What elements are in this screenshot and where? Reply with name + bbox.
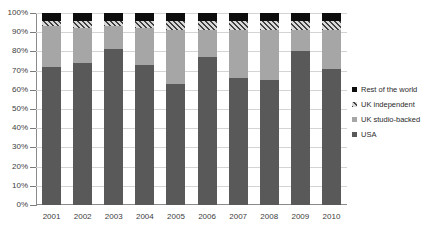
bar-group xyxy=(166,13,185,205)
bar-segment-usa xyxy=(104,49,123,205)
bar-segment-uk-studio-backed xyxy=(198,30,217,57)
x-axis-tick-label: 2001 xyxy=(37,212,67,221)
bar-segment-rest-of-the-world xyxy=(322,13,341,21)
legend-item-label: Rest of the world xyxy=(361,86,417,94)
bar-segment-usa xyxy=(291,51,310,205)
bar-group xyxy=(291,13,310,205)
bar-segment-uk-independent xyxy=(42,21,61,27)
bar-segment-usa xyxy=(73,63,92,205)
bar-segment-rest-of-the-world xyxy=(260,13,279,21)
x-axis-tick-label: 2007 xyxy=(223,212,253,221)
y-axis-tick-label: 100% xyxy=(0,9,28,17)
legend-swatch-usa xyxy=(352,132,357,137)
bar-segment-usa xyxy=(42,67,61,205)
bar-segment-uk-studio-backed xyxy=(104,26,123,49)
bar-segment-usa xyxy=(166,84,185,205)
bar-segment-uk-independent xyxy=(135,21,154,29)
x-axis-tick-label: 2008 xyxy=(254,212,284,221)
chart-legend: Rest of the worldUK independentUK studio… xyxy=(352,82,428,142)
bar-segment-uk-independent xyxy=(322,21,341,31)
bar-segment-uk-studio-backed xyxy=(42,26,61,66)
bar-segment-rest-of-the-world xyxy=(198,13,217,21)
plot-area xyxy=(36,13,347,205)
bar-segment-uk-independent xyxy=(166,21,185,31)
bar-segment-uk-studio-backed xyxy=(229,30,248,78)
x-axis-tick-label: 2009 xyxy=(285,212,315,221)
legend-swatch-uk-studio-backed xyxy=(352,117,357,122)
bar-segment-usa xyxy=(322,69,341,205)
bar-segment-usa xyxy=(229,78,248,205)
chart-container: 0%10%20%30%40%50%60%70%80%90%100% 200120… xyxy=(0,0,428,237)
bar-group xyxy=(229,13,248,205)
bar-group xyxy=(135,13,154,205)
bar-segment-uk-studio-backed xyxy=(73,28,92,63)
legend-swatch-rest-of-the-world xyxy=(352,87,357,92)
bar-segment-uk-independent xyxy=(260,21,279,31)
y-axis-tick-label: 90% xyxy=(0,28,28,36)
bar-segment-uk-independent xyxy=(229,21,248,31)
bar-group xyxy=(322,13,341,205)
bar-segment-uk-independent xyxy=(291,21,310,31)
bar-group xyxy=(73,13,92,205)
legend-item[interactable]: USA xyxy=(352,127,428,142)
x-axis-tick-label: 2005 xyxy=(161,212,191,221)
bar-group xyxy=(198,13,217,205)
bar-segment-uk-studio-backed xyxy=(166,30,185,84)
x-axis-tick-label: 2006 xyxy=(192,212,222,221)
bar-segment-rest-of-the-world xyxy=(104,13,123,21)
bar-segment-uk-studio-backed xyxy=(291,30,310,51)
x-axis-tick-label: 2002 xyxy=(68,212,98,221)
bar-segment-rest-of-the-world xyxy=(229,13,248,21)
bar-segment-usa xyxy=(135,65,154,205)
bar-segment-uk-studio-backed xyxy=(260,30,279,80)
legend-item-label: USA xyxy=(361,131,376,139)
y-axis-tick-label: 0% xyxy=(0,201,28,209)
bar-segment-usa xyxy=(260,80,279,205)
legend-item-label: UK studio-backed xyxy=(361,116,420,124)
bar-segment-uk-independent xyxy=(104,21,123,27)
x-axis-tick-label: 2003 xyxy=(99,212,129,221)
bar-segment-rest-of-the-world xyxy=(42,13,61,21)
y-axis-tick-label: 60% xyxy=(0,86,28,94)
y-axis-tick-label: 80% xyxy=(0,47,28,55)
y-axis-tick-label: 10% xyxy=(0,182,28,190)
bar-segment-rest-of-the-world xyxy=(291,13,310,21)
bar-segment-rest-of-the-world xyxy=(73,13,92,21)
bar-group xyxy=(104,13,123,205)
bar-group xyxy=(42,13,61,205)
y-axis-tick-label: 30% xyxy=(0,143,28,151)
x-axis-tick-label: 2004 xyxy=(130,212,160,221)
y-axis-tick-label: 20% xyxy=(0,163,28,171)
bar-segment-rest-of-the-world xyxy=(166,13,185,21)
bar-segment-uk-independent xyxy=(73,21,92,29)
y-axis-tick-label: 70% xyxy=(0,67,28,75)
bar-segment-rest-of-the-world xyxy=(135,13,154,21)
legend-item[interactable]: UK independent xyxy=(352,97,428,112)
bar-segment-uk-independent xyxy=(198,21,217,31)
legend-item[interactable]: Rest of the world xyxy=(352,82,428,97)
bar-segment-uk-studio-backed xyxy=(135,28,154,64)
legend-item[interactable]: UK studio-backed xyxy=(352,112,428,127)
y-axis-tick-label: 50% xyxy=(0,105,28,113)
bar-segment-uk-studio-backed xyxy=(322,30,341,68)
legend-item-label: UK independent xyxy=(361,101,415,109)
y-axis-tick-label: 40% xyxy=(0,124,28,132)
legend-swatch-uk-independent xyxy=(352,102,357,107)
x-axis-tick-label: 2010 xyxy=(316,212,346,221)
bar-group xyxy=(260,13,279,205)
bar-segment-usa xyxy=(198,57,217,205)
